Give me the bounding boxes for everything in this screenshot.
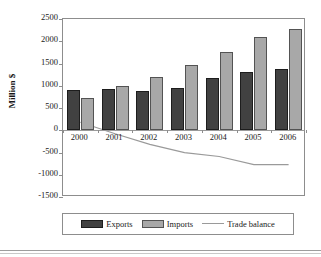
bar-imports <box>220 52 233 130</box>
legend-item-exports: Exports <box>81 219 132 229</box>
plot-area <box>62 18 305 196</box>
line-swatch-icon <box>202 220 224 228</box>
y-axis-tick-mark <box>59 197 63 198</box>
legend-label-imports: Imports <box>167 219 193 229</box>
bar-exports <box>67 90 80 130</box>
bar-swatch-dark-icon <box>81 220 103 228</box>
y-axis-tick-label: 1500 <box>28 58 58 67</box>
bar-exports <box>102 89 115 130</box>
zero-baseline <box>63 130 304 131</box>
bar-imports <box>185 65 198 130</box>
y-axis-tick-label: 2000 <box>28 35 58 44</box>
y-axis-tick-mark <box>59 19 63 20</box>
x-axis-tick-label: 2006 <box>268 132 308 142</box>
bar-imports <box>289 29 302 130</box>
y-axis-tick-labels: 25002000150010005000-500-1000-1500 <box>22 0 58 257</box>
bar-exports <box>136 91 149 130</box>
bar-imports <box>150 77 163 130</box>
y-axis-tick-label: -1500 <box>28 191 58 200</box>
y-axis-tick-mark <box>59 175 63 176</box>
y-axis-tick-mark <box>59 64 63 65</box>
y-axis-tick-label: 1000 <box>28 80 58 89</box>
y-axis-tick-mark <box>59 108 63 109</box>
chart-legend: Exports Imports Trade balance <box>62 213 294 235</box>
bar-exports <box>206 78 219 130</box>
x-axis-tick-labels: 2000200120022003200420052006 <box>62 132 305 146</box>
bar-imports <box>116 86 129 131</box>
y-axis-tick-mark <box>59 41 63 42</box>
y-axis-tick-label: 0 <box>28 124 58 133</box>
bar-exports <box>240 72 253 131</box>
y-axis-tick-label: -500 <box>28 147 58 156</box>
y-axis-title: Million $ <box>7 61 17 121</box>
page-rule-top <box>0 250 321 251</box>
legend-item-trade-balance: Trade balance <box>202 219 275 229</box>
legend-label-exports: Exports <box>106 219 132 229</box>
y-axis-tick-label: 2500 <box>28 13 58 22</box>
bar-exports <box>171 88 184 130</box>
bar-swatch-light-icon <box>142 220 164 228</box>
bar-exports <box>275 69 288 131</box>
chart-figure: Million $ 25002000150010005000-500-1000-… <box>0 0 321 257</box>
y-axis-tick-mark <box>59 86 63 87</box>
page-rule-bottom <box>0 253 321 254</box>
bar-imports <box>81 98 94 130</box>
y-axis-tick-label: 500 <box>28 102 58 111</box>
legend-item-imports: Imports <box>142 219 193 229</box>
y-axis-tick-mark <box>59 153 63 154</box>
legend-label-trade-balance: Trade balance <box>227 219 275 229</box>
y-axis-tick-label: -1000 <box>28 169 58 178</box>
bar-imports <box>254 37 267 130</box>
